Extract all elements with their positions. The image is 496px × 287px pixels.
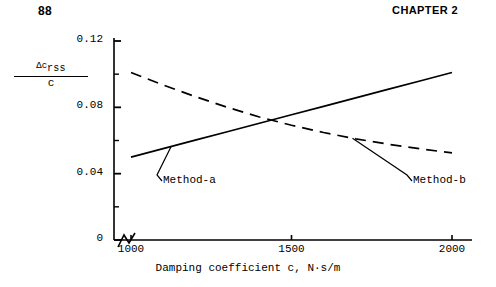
y-axis-tick-label: 0.12 bbox=[0, 33, 103, 45]
y-axis-tick-label: 0 bbox=[0, 232, 103, 244]
series-line-method-a bbox=[131, 73, 452, 158]
y-axis-label-numerator: Δcrss bbox=[14, 60, 88, 77]
x-axis-tick-label: 2000 bbox=[439, 243, 465, 255]
x-axis-tick-label: 1000 bbox=[118, 243, 144, 255]
y-axis-label: Δcrss c bbox=[14, 60, 88, 89]
y-axis-tick-label: 0.08 bbox=[0, 99, 103, 111]
x-axis-title: Damping coefficient c, N·s/m bbox=[0, 262, 496, 274]
x-axis-tick-label: 1500 bbox=[278, 243, 304, 255]
series-label-method-a: Method-a bbox=[163, 174, 216, 186]
annotation-leader-method-b bbox=[352, 138, 412, 181]
y-axis-tick-label: 0.04 bbox=[0, 166, 103, 178]
y-axis-label-delta-c: Δc bbox=[36, 61, 47, 71]
figure-damping-coefficient: Δcrss c Damping coefficient c, N·s/m 00.… bbox=[0, 0, 496, 287]
series-label-method-b: Method-b bbox=[413, 174, 466, 186]
y-axis-label-denominator: c bbox=[14, 77, 88, 90]
y-axis-label-subscript: rss bbox=[47, 63, 66, 74]
